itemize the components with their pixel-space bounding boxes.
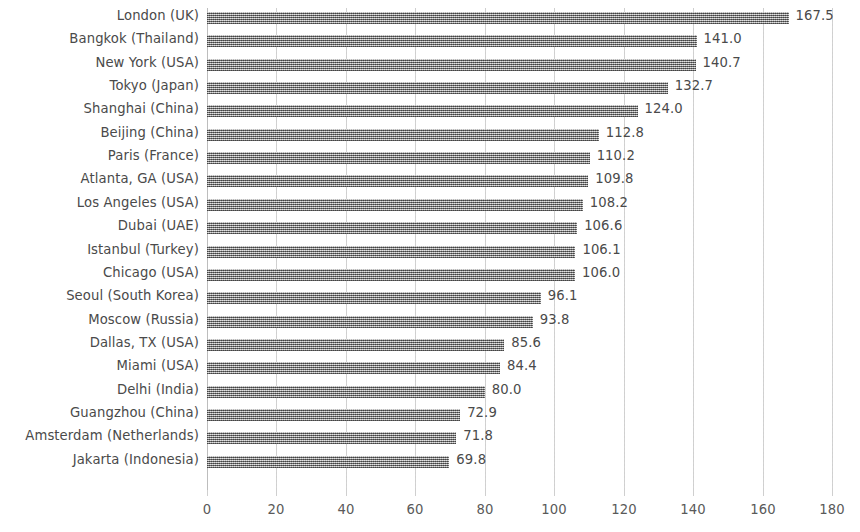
category-label: Beijing (China): [0, 126, 199, 140]
value-label: 132.7: [675, 79, 713, 93]
bar-row: London (UK)167.5: [0, 9, 860, 32]
bar-row: Guangzhou (China)72.9: [0, 406, 860, 429]
category-label: Miami (USA): [0, 359, 199, 373]
category-label: Los Angeles (USA): [0, 196, 199, 210]
category-label: New York (USA): [0, 56, 199, 70]
x-tick-label: 120: [594, 502, 654, 517]
category-label: Tokyo (Japan): [0, 79, 199, 93]
value-label: 167.5: [796, 9, 834, 23]
x-axis: 020406080100120140160180: [0, 490, 860, 532]
tick-mark-0: [207, 490, 208, 496]
category-label: Chicago (USA): [0, 266, 199, 280]
x-tick-label: 80: [455, 502, 515, 517]
category-label: Delhi (India): [0, 383, 199, 397]
bar[interactable]: [207, 105, 638, 117]
value-label: 85.6: [511, 336, 541, 350]
value-label: 72.9: [467, 406, 497, 420]
bar-row: Dubai (UAE)106.6: [0, 219, 860, 242]
value-label: 124.0: [645, 102, 683, 116]
category-label: Bangkok (Thailand): [0, 32, 199, 46]
bar[interactable]: [207, 199, 583, 211]
bar[interactable]: [207, 59, 696, 71]
tick-mark-120: [624, 490, 625, 496]
x-tick-label: 140: [663, 502, 723, 517]
value-label: 93.8: [540, 313, 570, 327]
x-tick-label: 100: [524, 502, 584, 517]
bar[interactable]: [207, 386, 485, 398]
x-tick-label: 20: [246, 502, 306, 517]
bar-row: Moscow (Russia)93.8: [0, 313, 860, 336]
bar-row: Dallas, TX (USA)85.6: [0, 336, 860, 359]
x-tick-label: 60: [385, 502, 445, 517]
value-label: 141.0: [704, 32, 742, 46]
bar[interactable]: [207, 269, 575, 281]
bar-row: Shanghai (China)124.0: [0, 102, 860, 125]
bar[interactable]: [207, 409, 460, 421]
category-label: Seoul (South Korea): [0, 289, 199, 303]
bar[interactable]: [207, 316, 533, 328]
category-label: Dubai (UAE): [0, 219, 199, 233]
tick-mark-180: [832, 490, 833, 496]
value-label: 106.6: [584, 219, 622, 233]
bar-row: Miami (USA)84.4: [0, 359, 860, 382]
bar-row: Atlanta, GA (USA)109.8: [0, 172, 860, 195]
category-label: Guangzhou (China): [0, 406, 199, 420]
bar-chart: London (UK)167.5Bangkok (Thailand)141.0N…: [0, 0, 860, 532]
bar-row: Seoul (South Korea)96.1: [0, 289, 860, 312]
value-label: 80.0: [492, 383, 522, 397]
value-label: 108.2: [590, 196, 628, 210]
bar-row: Paris (France)110.2: [0, 149, 860, 172]
category-label: Jakarta (Indonesia): [0, 453, 199, 467]
category-label: Atlanta, GA (USA): [0, 172, 199, 186]
x-tick-label: 160: [733, 502, 793, 517]
category-label: Istanbul (Turkey): [0, 243, 199, 257]
bar[interactable]: [207, 362, 500, 374]
bar[interactable]: [207, 82, 668, 94]
bar-row: Beijing (China)112.8: [0, 126, 860, 149]
bar-row: Chicago (USA)106.0: [0, 266, 860, 289]
bar[interactable]: [207, 222, 577, 234]
tick-mark-140: [693, 490, 694, 496]
bar[interactable]: [207, 152, 590, 164]
value-label: 71.8: [463, 429, 493, 443]
x-tick-label: 40: [316, 502, 376, 517]
category-label: Shanghai (China): [0, 102, 199, 116]
x-tick-label: 180: [802, 502, 860, 517]
tick-mark-40: [346, 490, 347, 496]
bar-row: Delhi (India)80.0: [0, 383, 860, 406]
bar[interactable]: [207, 35, 697, 47]
category-label: Paris (France): [0, 149, 199, 163]
value-label: 109.8: [595, 172, 633, 186]
value-label: 69.8: [456, 453, 486, 467]
bar[interactable]: [207, 432, 456, 444]
tick-mark-80: [485, 490, 486, 496]
bar[interactable]: [207, 175, 588, 187]
bar[interactable]: [207, 339, 504, 351]
x-tick-label: 0: [177, 502, 237, 517]
category-label: Dallas, TX (USA): [0, 336, 199, 350]
value-label: 110.2: [597, 149, 635, 163]
bar-rows: London (UK)167.5Bangkok (Thailand)141.0N…: [0, 0, 860, 492]
tick-mark-160: [763, 490, 764, 496]
bar-row: Jakarta (Indonesia)69.8: [0, 453, 860, 476]
value-label: 106.0: [582, 266, 620, 280]
bar-row: New York (USA)140.7: [0, 56, 860, 79]
bar[interactable]: [207, 292, 541, 304]
bar[interactable]: [207, 129, 599, 141]
value-label: 106.1: [582, 243, 620, 257]
category-label: London (UK): [0, 9, 199, 23]
bar-row: Amsterdam (Netherlands)71.8: [0, 429, 860, 452]
tick-mark-20: [276, 490, 277, 496]
value-label: 84.4: [507, 359, 537, 373]
category-label: Amsterdam (Netherlands): [0, 429, 199, 443]
value-label: 140.7: [703, 56, 741, 70]
bar-row: Istanbul (Turkey)106.1: [0, 243, 860, 266]
category-label: Moscow (Russia): [0, 313, 199, 327]
bar[interactable]: [207, 246, 575, 258]
bar-row: Bangkok (Thailand)141.0: [0, 32, 860, 55]
value-label: 96.1: [548, 289, 578, 303]
bar[interactable]: [207, 456, 449, 468]
bar-row: Tokyo (Japan)132.7: [0, 79, 860, 102]
tick-mark-100: [554, 490, 555, 496]
bar[interactable]: [207, 12, 789, 24]
